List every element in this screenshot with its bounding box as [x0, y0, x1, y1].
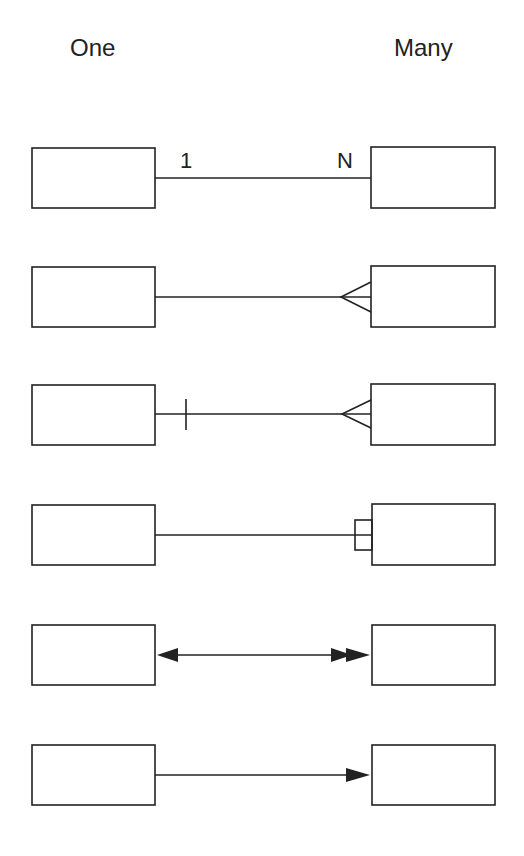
entity-box-many — [372, 745, 495, 805]
row-1-number-notation — [32, 147, 495, 208]
entity-box-many — [371, 266, 495, 327]
arrowhead-left-icon — [157, 648, 178, 662]
row-3-bar-crows-foot — [32, 384, 495, 445]
entity-box-one — [32, 505, 155, 565]
row-5-double-arrow — [32, 625, 495, 685]
entity-box-one — [32, 385, 155, 445]
arrowhead-right-icon — [346, 768, 370, 782]
entity-box-many — [372, 504, 495, 565]
entity-box-one — [32, 148, 155, 208]
entity-box-many — [371, 147, 495, 208]
relationship-diagram — [0, 0, 524, 856]
arrowhead-right-2-icon — [346, 648, 370, 662]
entity-box-many — [371, 384, 495, 445]
row-6-single-arrow — [32, 745, 495, 805]
row-4-box-end — [32, 504, 495, 565]
entity-box-one — [32, 745, 155, 805]
entity-box-one — [32, 267, 155, 327]
row-2-crows-foot — [32, 266, 495, 327]
entity-box-one — [32, 625, 155, 685]
entity-box-many — [372, 625, 495, 685]
